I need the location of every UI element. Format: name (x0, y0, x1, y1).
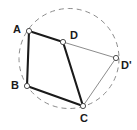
segment-Dprime-to-C (83, 58, 116, 106)
vertex-marker-C (80, 103, 85, 108)
vertex-marker-D (60, 39, 65, 44)
geometry-figure: A D B C D' (0, 0, 137, 130)
vertex-label-A: A (13, 24, 21, 35)
vertex-label-B: B (11, 80, 19, 91)
segment-B-to-C (27, 86, 83, 106)
vertex-label-D: D (70, 30, 78, 41)
vertex-marker-B (24, 83, 29, 88)
vertex-label-C: C (80, 113, 88, 124)
segment-A-to-B (27, 31, 29, 86)
vertex-marker-Dprime (113, 55, 118, 60)
vertex-marker-A (26, 28, 31, 33)
segment-A-to-D (29, 31, 63, 42)
segment-D-to-Dprime (63, 42, 116, 58)
segment-D-to-C (63, 42, 83, 106)
vertex-label-Dprime: D' (121, 60, 132, 71)
geometry-canvas (0, 0, 137, 130)
